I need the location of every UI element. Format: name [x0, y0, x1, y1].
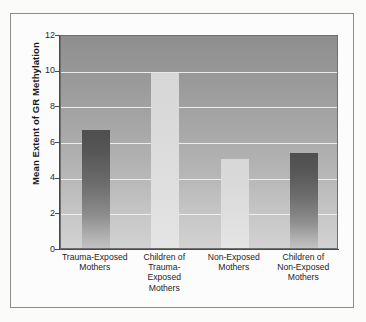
- y-axis-tick-label: 12: [15, 31, 55, 40]
- x-axis-category-label-line: Exposed: [126, 272, 204, 282]
- y-axis-tick-label: 8: [15, 102, 55, 111]
- y-axis-tick-mark: [55, 213, 59, 214]
- y-axis-tick-mark: [55, 178, 59, 179]
- y-axis-tick-mark: [55, 106, 59, 107]
- plot-area-wrapper: [60, 35, 338, 249]
- x-axis-category-label-line: Non-Exposed: [265, 262, 343, 272]
- x-axis-category-label-line: Children of: [126, 252, 204, 262]
- x-axis-category-label-line: Mothers: [126, 283, 204, 293]
- bar: [221, 159, 249, 248]
- y-axis-tick-label: 10: [15, 66, 55, 75]
- bar: [82, 130, 110, 248]
- y-axis-tick-label: 4: [15, 173, 55, 182]
- plot-area: [60, 35, 338, 249]
- y-axis-tick-label: 2: [15, 209, 55, 218]
- x-axis-category-label: Children ofTrauma-ExposedMothers: [126, 252, 204, 293]
- y-axis-tick-label: 0: [15, 245, 55, 254]
- x-axis-category-label-line: Children of: [265, 252, 343, 262]
- x-axis-category-label-line: Mothers: [195, 262, 273, 272]
- x-axis-category-labels: Trauma-ExposedMothersChildren ofTrauma-E…: [60, 252, 338, 306]
- y-axis-tick-mark: [55, 35, 59, 36]
- bar: [290, 153, 318, 248]
- y-axis-tick-labels: 024681012: [8, 0, 55, 322]
- x-axis-category-label: Trauma-ExposedMothers: [56, 252, 134, 272]
- bar: [151, 73, 179, 248]
- gridline: [61, 72, 337, 73]
- x-axis-category-label-line: Mothers: [56, 262, 134, 272]
- x-axis-category-label-line: Trauma-: [126, 262, 204, 272]
- figure-canvas: Mean Extent of GR Methylation 024681012 …: [0, 0, 366, 322]
- x-axis-category-label-line: Mothers: [265, 272, 343, 282]
- x-axis-category-label: Non-ExposedMothers: [195, 252, 273, 272]
- x-axis-category-label: Children ofNon-ExposedMothers: [265, 252, 343, 283]
- y-axis-tick-mark: [55, 142, 59, 143]
- x-axis-line: [59, 249, 339, 250]
- y-axis-tick-label: 6: [15, 138, 55, 147]
- x-axis-category-label-line: Trauma-Exposed: [56, 252, 134, 262]
- x-axis-category-label-line: Non-Exposed: [195, 252, 273, 262]
- gridline: [61, 107, 337, 108]
- y-axis-tick-mark: [55, 71, 59, 72]
- y-axis-tick-mark: [55, 249, 59, 250]
